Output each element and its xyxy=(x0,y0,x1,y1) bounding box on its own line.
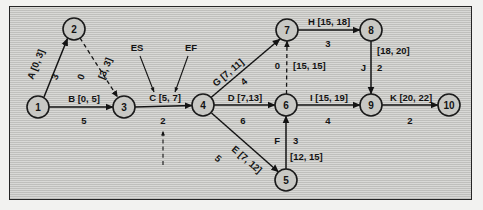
edge-E-duration-label: 5 xyxy=(213,152,225,164)
node-5[interactable]: 5 xyxy=(275,169,297,191)
es-label: ES xyxy=(131,42,144,53)
edge-dummy-6-7-duration-label: 0 xyxy=(275,60,280,71)
ef-pointer-arrow xyxy=(175,56,188,92)
node-2-label: 2 xyxy=(71,24,77,35)
node-10[interactable]: 10 xyxy=(438,94,460,116)
node-9-label: 9 xyxy=(368,100,374,111)
node-3[interactable]: 3 xyxy=(113,96,135,118)
edge-F-activity-label: F xyxy=(274,135,280,146)
edge-D-activity-label: D [7,13] xyxy=(228,92,262,103)
node-4-label: 4 xyxy=(200,100,206,111)
edge-K-duration-label: 2 xyxy=(407,115,412,126)
edge-C xyxy=(135,106,192,108)
node-6[interactable]: 6 xyxy=(275,94,297,116)
node-3-label: 3 xyxy=(121,102,127,113)
edge-I-duration-label: 4 xyxy=(325,115,331,126)
node-9[interactable]: 9 xyxy=(360,94,382,116)
edge-K-activity-label: K [20, 22] xyxy=(390,92,432,103)
edge-dummy-6-7 xyxy=(287,41,288,94)
edge-G xyxy=(211,39,280,98)
es-pointer-arrow xyxy=(140,56,154,92)
node-10-label: 10 xyxy=(443,100,455,111)
edge-F-window-label: [12, 15] xyxy=(290,151,323,162)
edge-H-duration-label: 3 xyxy=(325,38,330,49)
edge-C-activity-label: C [5, 7] xyxy=(149,92,181,103)
edge-D-duration-label: 6 xyxy=(240,115,245,126)
edge-A xyxy=(44,39,68,98)
node-8[interactable]: 8 xyxy=(360,19,382,41)
edge-I-activity-label: I [15, 19] xyxy=(310,92,348,103)
edge-B-activity-label: B [0, 5] xyxy=(68,93,100,104)
node-1-label: 1 xyxy=(35,102,41,113)
node-8-label: 8 xyxy=(368,25,374,36)
node-1[interactable]: 1 xyxy=(27,96,49,118)
edge-J-duration-label: 2 xyxy=(377,62,382,73)
node-7[interactable]: 7 xyxy=(276,19,298,41)
edge-J-activity-label: J xyxy=(361,62,366,73)
node-6-label: 6 xyxy=(283,100,289,111)
node-7-label: 7 xyxy=(284,25,290,36)
network-graph: 1 2 3 4 5 6 7 8 xyxy=(0,0,483,210)
edge-C-duration-label: 2 xyxy=(160,115,165,126)
edge-H-activity-label: H [15, 18] xyxy=(308,16,350,27)
node-5-label: 5 xyxy=(283,175,289,186)
edge-B-duration-label: 5 xyxy=(81,115,87,126)
edge-E-activity-label: E [7, 12] xyxy=(230,143,265,175)
edge-A-activity-label: A [0, 3] xyxy=(25,48,47,81)
node-4[interactable]: 4 xyxy=(192,94,214,116)
edge-dummy-2-3-window-label: [3, 3] xyxy=(96,56,115,81)
network-diagram-figure: 1 2 3 4 5 6 7 8 xyxy=(0,0,483,210)
ef-label: EF xyxy=(185,42,197,53)
edge-G-duration-label: 4 xyxy=(238,75,250,87)
node-2[interactable]: 2 xyxy=(63,18,85,40)
edge-J-window-label: [18, 20] xyxy=(377,45,410,56)
edge-F-duration-label: 3 xyxy=(293,135,298,146)
edge-dummy-2-3-duration-label: 0 xyxy=(75,72,87,81)
edge-dummy-6-7-window-label: [15, 15] xyxy=(293,60,326,71)
